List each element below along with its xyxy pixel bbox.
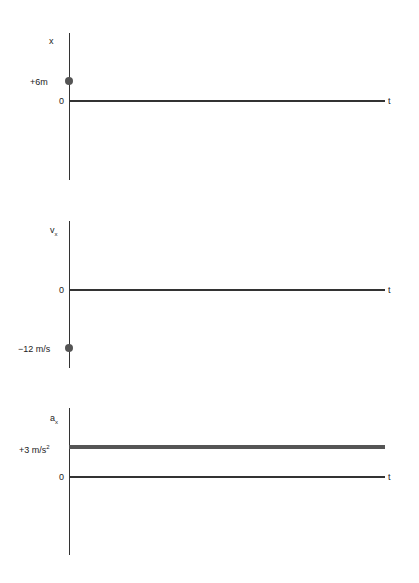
velocity-initial-dot <box>65 344 73 352</box>
velocity-t-label: t <box>388 285 391 295</box>
acceleration-t-label: t <box>388 472 391 482</box>
position-graph: x +6m 0 t <box>0 0 419 195</box>
position-t-axis <box>69 100 385 102</box>
velocity-t-axis <box>69 289 385 291</box>
acceleration-marker-label: +3 m/s2 <box>19 442 50 455</box>
position-y-label: x <box>49 36 54 46</box>
acceleration-y-axis <box>69 408 71 555</box>
position-zero-label: 0 <box>59 96 64 106</box>
velocity-zero-label: 0 <box>59 285 64 295</box>
velocity-y-label: vx <box>50 225 58 239</box>
position-t-label: t <box>388 96 391 106</box>
velocity-y-axis <box>69 221 71 368</box>
acceleration-y-label: ax <box>50 413 58 427</box>
position-initial-dot <box>65 77 73 85</box>
acceleration-constant-line <box>69 445 385 449</box>
position-y-axis <box>69 33 71 180</box>
position-marker-label: +6m <box>30 77 48 87</box>
acceleration-t-axis <box>69 476 385 478</box>
velocity-marker-label: −12 m/s <box>18 344 50 354</box>
acceleration-zero-label: 0 <box>59 472 64 482</box>
